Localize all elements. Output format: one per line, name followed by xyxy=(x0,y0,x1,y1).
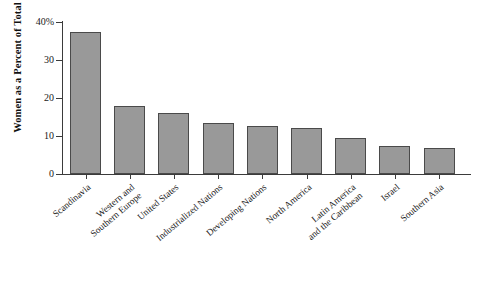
y-axis-tick-label: 20 xyxy=(14,92,54,103)
y-axis-tick-label: 10 xyxy=(14,130,54,141)
y-axis-tick xyxy=(56,22,63,23)
y-axis-tick xyxy=(56,98,63,99)
x-axis-label: Developing Nations xyxy=(189,182,269,252)
bar-chart-figure: Women as a Percent of Total 010203040% S… xyxy=(0,0,492,281)
bar xyxy=(291,128,322,174)
x-axis-tick xyxy=(174,175,175,179)
bar xyxy=(203,123,234,174)
x-axis-tick xyxy=(86,175,87,179)
y-axis-tick-label: 0 xyxy=(14,168,54,179)
y-axis-tick-label: 30 xyxy=(14,54,54,65)
y-axis-tick xyxy=(56,136,63,137)
bar xyxy=(379,146,410,175)
x-axis-label: Industrialized Nations xyxy=(145,182,225,252)
bar xyxy=(158,113,189,174)
y-axis-tick-label: 40% xyxy=(14,16,54,27)
x-axis-label: Southern Asia xyxy=(366,182,446,252)
bar xyxy=(70,32,101,175)
bar xyxy=(114,106,145,174)
x-axis-tick xyxy=(130,175,131,179)
x-axis-tick xyxy=(439,175,440,179)
x-axis-tick xyxy=(307,175,308,179)
x-axis-tick xyxy=(262,175,263,179)
x-axis-tick xyxy=(395,175,396,179)
bar xyxy=(424,148,455,174)
bar xyxy=(247,126,278,174)
x-axis-tick xyxy=(351,175,352,179)
x-axis-tick xyxy=(218,175,219,179)
y-axis-tick xyxy=(56,60,63,61)
x-axis-line xyxy=(62,174,471,175)
y-axis-tick xyxy=(56,174,63,175)
bar xyxy=(335,138,366,174)
